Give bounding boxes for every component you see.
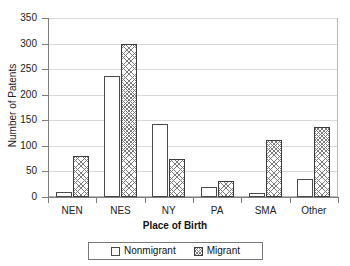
y-tick-label: 200 (20, 90, 37, 100)
y-tick-mark (42, 69, 48, 70)
x-tick-label: NEN (48, 205, 96, 216)
x-tick-mark (193, 197, 194, 203)
legend-label: Migrant (207, 246, 240, 256)
bar-nonmigrant-other (297, 179, 313, 197)
bar-migrant-ny (169, 159, 185, 197)
gridline (49, 44, 337, 45)
legend-item-migrant: Migrant (194, 246, 240, 256)
y-tick-label: 100 (20, 141, 37, 151)
y-tick-mark (42, 44, 48, 45)
plot-area (48, 18, 338, 197)
x-axis-title: Place of Birth (0, 220, 350, 231)
y-axis-line (48, 18, 49, 198)
y-tick-label: 350 (20, 13, 37, 23)
y-tick-label: 300 (20, 39, 37, 49)
open-square-swatch (111, 247, 120, 256)
y-tick-label: 0 (31, 192, 37, 202)
x-tick-label: NES (96, 205, 144, 216)
x-tick-mark (338, 197, 339, 203)
x-tick-mark (96, 197, 97, 203)
gridlines (49, 19, 337, 196)
x-tick-mark (48, 197, 49, 203)
x-tick-label: NY (145, 205, 193, 216)
x-tick-label: SMA (241, 205, 289, 216)
x-tick-mark (145, 197, 146, 203)
chart-legend: NonmigrantMigrant (88, 242, 263, 260)
y-tick-mark (42, 146, 48, 147)
gridline (49, 171, 337, 172)
gridline (49, 120, 337, 121)
y-tick-label: 150 (20, 115, 37, 125)
bar-nonmigrant-ny (152, 124, 168, 197)
y-tick-mark (42, 120, 48, 121)
bar-migrant-nes (121, 44, 137, 197)
bar-nonmigrant-sma (249, 193, 265, 197)
y-tick-label: 50 (26, 166, 37, 176)
x-tick-mark (241, 197, 242, 203)
gridline (49, 95, 337, 96)
bar-nonmigrant-nen (56, 192, 72, 197)
y-tick-mark (42, 18, 48, 19)
legend-label: Nonmigrant (124, 246, 176, 256)
x-tick-label: PA (193, 205, 241, 216)
gridline (49, 69, 337, 70)
gridline (49, 18, 337, 19)
bar-chart: 050100150200250300350 Number of Patents … (0, 0, 350, 266)
hatched-square-swatch (194, 247, 203, 256)
bar-migrant-pa (218, 181, 234, 197)
bar-migrant-nen (73, 156, 89, 197)
bar-migrant-other (314, 127, 330, 197)
x-tick-mark (290, 197, 291, 203)
gridline (49, 146, 337, 147)
y-tick-mark (42, 95, 48, 96)
y-axis-title: Number of Patents (7, 31, 18, 181)
bar-nonmigrant-pa (201, 187, 217, 197)
x-tick-label: Other (290, 205, 338, 216)
bar-nonmigrant-nes (104, 76, 120, 197)
bar-migrant-sma (266, 140, 282, 197)
y-tick-mark (42, 171, 48, 172)
legend-item-nonmigrant: Nonmigrant (111, 246, 176, 256)
y-tick-label: 250 (20, 64, 37, 74)
